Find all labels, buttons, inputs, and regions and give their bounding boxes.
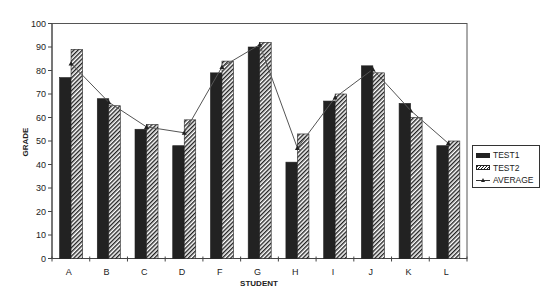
y-tick-label: 30 xyxy=(36,183,46,193)
bar-test2 xyxy=(448,141,460,259)
bar-test1 xyxy=(97,99,109,259)
legend-label: AVERAGE xyxy=(493,175,533,185)
y-tick-label: 100 xyxy=(31,19,46,29)
x-axis-title: STUDENT xyxy=(240,279,278,288)
bar-test2 xyxy=(147,125,159,259)
y-axis-title: GRADE xyxy=(21,127,30,157)
y-tick-label: 40 xyxy=(36,160,46,170)
bar-test1 xyxy=(248,47,260,259)
bar-test1 xyxy=(399,103,411,258)
x-tick-label: F xyxy=(217,267,223,277)
x-tick-label: A xyxy=(66,267,72,277)
legend-item-test1: TEST1 xyxy=(476,149,539,162)
bar-test2 xyxy=(184,120,196,259)
bar-test2 xyxy=(71,49,83,258)
bar-test1 xyxy=(437,146,449,259)
bar-test1 xyxy=(173,146,185,259)
x-tick-label: C xyxy=(141,267,148,277)
bar-test2 xyxy=(222,61,234,258)
legend-label: TEST2 xyxy=(493,163,519,173)
bar-test2 xyxy=(411,118,423,259)
y-tick-label: 0 xyxy=(41,254,46,264)
legend-label: TEST1 xyxy=(493,150,519,160)
x-tick-label: H xyxy=(292,267,299,277)
hatched-swatch-icon xyxy=(476,165,490,170)
x-tick-label: L xyxy=(444,267,449,277)
bar-test2 xyxy=(109,106,121,259)
x-axis: ABCDFGHIJKL xyxy=(52,257,467,277)
legend: TEST1 TEST2 AVERAGE xyxy=(472,145,540,188)
bar-test1 xyxy=(286,162,298,258)
y-axis: 0102030405060708090100 xyxy=(31,19,52,264)
y-tick-label: 20 xyxy=(36,207,46,217)
bar-test2 xyxy=(373,73,385,259)
x-tick-label: K xyxy=(405,267,411,277)
y-tick-label: 90 xyxy=(36,42,46,52)
bar-test2 xyxy=(260,42,272,258)
x-tick-label: I xyxy=(332,267,335,277)
y-tick-label: 80 xyxy=(36,66,46,76)
x-tick-label: D xyxy=(179,267,186,277)
bar-test2 xyxy=(335,94,347,259)
y-tick-label: 60 xyxy=(36,113,46,123)
bar-test1 xyxy=(361,66,373,259)
bar-test1 xyxy=(210,73,222,259)
bar-test2 xyxy=(297,134,309,259)
x-tick-label: G xyxy=(254,267,261,277)
y-tick-label: 50 xyxy=(36,136,46,146)
legend-item-test2: TEST2 xyxy=(476,162,539,175)
y-tick-label: 70 xyxy=(36,89,46,99)
y-tick-label: 10 xyxy=(36,230,46,240)
bar-test1 xyxy=(135,129,147,258)
x-tick-label: B xyxy=(104,267,110,277)
solid-swatch-icon xyxy=(476,153,490,158)
legend-item-average: AVERAGE xyxy=(476,174,539,187)
bar-test1 xyxy=(324,101,336,258)
x-tick-label: J xyxy=(368,267,373,277)
bar-test1 xyxy=(60,78,72,259)
triangle-line-icon xyxy=(476,177,490,184)
